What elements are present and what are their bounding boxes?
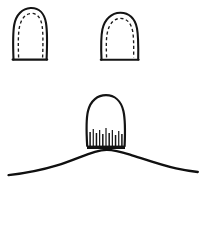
diagram-canvas: Hand-drawn arch forms diagram Three dome… xyxy=(0,0,203,228)
diagram-root: Hand-drawn arch forms diagram Three dome… xyxy=(0,0,203,228)
dome-base-band xyxy=(87,146,125,149)
